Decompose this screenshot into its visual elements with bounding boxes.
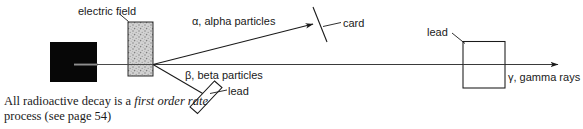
alpha-particle-beam-line bbox=[153, 24, 313, 65]
caption-emphasis: first order rate bbox=[134, 94, 208, 108]
radioactive-source-block bbox=[50, 42, 97, 82]
caption-part-one: All radioactive decay is a bbox=[4, 94, 134, 108]
card-label: card bbox=[343, 17, 364, 29]
lead-block-gamma-label: lead bbox=[427, 26, 448, 38]
electric-field-label: electric field bbox=[78, 5, 136, 17]
card-detector bbox=[313, 7, 327, 42]
lead-right-leader-line bbox=[452, 33, 465, 44]
beta-particles-label: β, beta particles bbox=[185, 69, 263, 81]
alpha-particles-label: α, alpha particles bbox=[192, 15, 275, 27]
gamma-rays-label: γ, gamma rays bbox=[508, 71, 580, 83]
radioactive-decay-diagram: electric field α, alpha particles card l… bbox=[0, 0, 583, 129]
card-leader-line bbox=[323, 23, 341, 27]
source-collimator-slit bbox=[74, 64, 98, 66]
electric-field-plates bbox=[128, 22, 153, 76]
caption-part-two: process (see page 54) bbox=[4, 109, 111, 123]
figure-caption: All radioactive decay is a first order r… bbox=[4, 94, 234, 124]
